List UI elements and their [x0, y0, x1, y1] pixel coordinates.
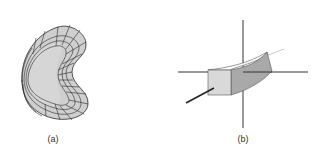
- depth-axis: [186, 88, 214, 103]
- figure-canvas: [0, 0, 327, 151]
- panel-a-label: (a): [48, 134, 59, 144]
- box-front-face: [208, 70, 231, 95]
- box-side-face: [231, 52, 272, 95]
- panel-b-axes-box: [178, 20, 308, 128]
- figure: (a) (b): [0, 0, 327, 151]
- panel-a-kidney-surface: [22, 25, 88, 120]
- panel-b-label: (b): [238, 134, 249, 144]
